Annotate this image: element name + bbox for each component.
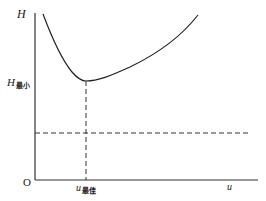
h-min-label: H最小 (7, 77, 30, 90)
h-curve (43, 14, 198, 81)
h-min-main: H (7, 76, 15, 88)
h-min-sub: 最小 (16, 82, 30, 90)
chart-canvas (0, 0, 266, 201)
origin-label: O (23, 177, 31, 188)
x-axis-label: u (227, 182, 232, 192)
y-axis-label: H (17, 8, 26, 20)
u-optimal-main: u (76, 182, 81, 193)
u-optimal-label: u最佳 (76, 183, 96, 195)
u-optimal-sub: 最佳 (82, 187, 96, 195)
